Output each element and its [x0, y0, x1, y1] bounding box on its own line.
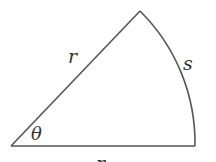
- label-arc-length: s: [183, 52, 193, 74]
- label-radius-upper: r: [68, 45, 79, 67]
- arc-line: [140, 11, 195, 146]
- label-angle-theta: θ: [31, 123, 42, 144]
- sector-diagram: r s θ r: [0, 0, 216, 162]
- label-radius-lower: r: [96, 152, 107, 162]
